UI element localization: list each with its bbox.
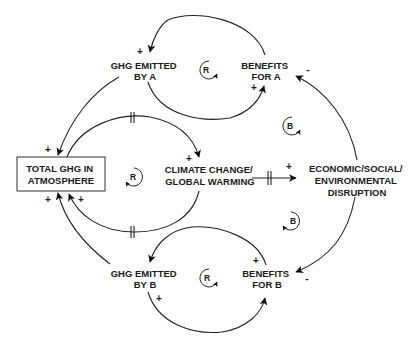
link-disruption-to-benefits-b — [296, 197, 355, 272]
link-ghg-b-to-benefits-b — [148, 292, 265, 333]
link-climate-to-total-ghg — [69, 191, 199, 232]
sign-ghg-a-in: + — [137, 46, 143, 57]
node-benefits-a-line2: FOR A — [251, 71, 280, 82]
link-ghg-b-to-total-ghg — [58, 193, 110, 264]
node-ghg-b-line2: BY B — [134, 279, 157, 290]
sign-disruption-in: + — [286, 161, 292, 172]
node-disruption-line2: ENVIRONMENTAL — [315, 175, 397, 186]
sign-benefits-b-top: + — [253, 255, 259, 266]
loop-center-reinforcing: R — [126, 168, 142, 186]
node-disruption-line3: DISRUPTION — [328, 187, 387, 198]
node-ghg-a-line2: BY A — [134, 71, 156, 82]
link-ghg-a-to-total-ghg — [58, 77, 119, 155]
link-benefits-b-to-ghg-b — [150, 227, 266, 265]
node-ghg-b-label: GHG EMITTED BY B — [111, 268, 180, 290]
sign-ghg-b-out: + — [156, 293, 162, 304]
node-total-ghg-line2: ATMOSPHERE — [28, 175, 94, 186]
node-ghg-a-line1: GHG EMITTED — [111, 60, 177, 71]
node-benefits-b-line2: FOR B — [252, 279, 282, 290]
delay-mark-total-to-climate — [131, 112, 134, 123]
node-ghg-a-label: GHG EMITTED BY A — [111, 60, 180, 82]
sign-benefits-a-in: + — [251, 82, 257, 93]
node-climate-label: CLIMATE CHANGE/ GLOBAL WARMING — [165, 164, 256, 187]
sign-total-ghg-top: + — [45, 144, 51, 155]
loop-upper-right-label: B — [287, 121, 293, 131]
node-benefits-a-label: BENEFITS FOR A — [241, 60, 291, 82]
loop-upper-right-balancing: B — [283, 117, 300, 135]
sign-benefits-a-minus: - — [306, 64, 309, 75]
loop-top-label: R — [203, 65, 209, 75]
loop-center-label: R — [130, 172, 136, 182]
link-benefits-a-to-ghg-a — [150, 15, 265, 55]
loop-bottom-reinforcing: R — [200, 269, 217, 287]
node-ghg-b-line1: GHG EMITTED — [111, 268, 177, 279]
sign-climate-in: + — [186, 153, 192, 164]
link-disruption-to-benefits-a — [296, 76, 357, 160]
node-total-ghg-line1: TOTAL GHG IN — [26, 163, 93, 174]
link-ghg-a-to-benefits-a — [148, 82, 264, 119]
node-disruption-line1: ECONOMIC/SOCIAL/ — [309, 163, 403, 174]
node-benefits-b-line1: BENEFITS — [242, 268, 289, 279]
link-total-ghg-to-climate — [67, 116, 199, 157]
sign-total-ghg-bottom-right: + — [78, 194, 84, 205]
loop-bottom-label: R — [204, 273, 210, 283]
loop-top-reinforcing: R — [200, 61, 217, 79]
node-climate-line1: CLIMATE CHANGE/ — [165, 164, 253, 175]
node-climate-line2: GLOBAL WARMING — [165, 176, 255, 187]
node-total-ghg-label: TOTAL GHG IN ATMOSPHERE — [26, 163, 96, 186]
node-benefits-a-line1: BENEFITS — [241, 60, 288, 71]
node-benefits-b-label: BENEFITS FOR B — [242, 268, 292, 290]
causal-loop-diagram: TOTAL GHG IN ATMOSPHERE CLIMATE CHANGE/ … — [0, 0, 414, 346]
loop-lower-right-label: B — [290, 216, 296, 226]
loop-lower-right-balancing: B — [283, 212, 299, 230]
sign-total-ghg-bottom-left: + — [45, 194, 51, 205]
sign-benefits-b-minus: - — [305, 273, 308, 284]
node-disruption-label: ECONOMIC/SOCIAL/ ENVIRONMENTAL DISRUPTIO… — [309, 163, 405, 198]
